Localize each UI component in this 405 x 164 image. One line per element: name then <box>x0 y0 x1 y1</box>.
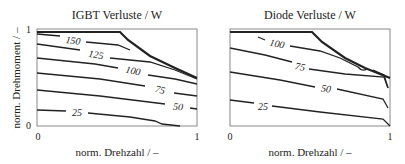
igbt-title: IGBT Verluste / W <box>72 8 163 22</box>
igbt-contour-labels: 150 125 100 75 50 25 <box>65 34 184 118</box>
igbt-label-100: 100 <box>125 64 142 78</box>
diode-label-75: 75 <box>294 60 306 73</box>
igbt-label-150: 150 <box>65 34 81 47</box>
igbt-xtick-1: 1 <box>195 131 200 142</box>
diode-title: Diode Verluste / W <box>264 8 357 22</box>
diode-label-100: 100 <box>269 37 286 51</box>
diode-axes-frame <box>230 29 390 126</box>
igbt-xtick-0: 0 <box>36 131 41 142</box>
igbt-contour-25 <box>37 110 180 126</box>
igbt-contour-100 <box>37 58 197 84</box>
igbt-ytick-1: 1 <box>26 24 31 35</box>
igbt-label-125: 125 <box>88 48 105 61</box>
diode-contour-labels: 100 75 50 25 <box>258 37 332 112</box>
igbt-label-50: 50 <box>173 101 184 113</box>
igbt-contour-125 <box>37 44 197 79</box>
igbt-label-25: 25 <box>72 107 82 118</box>
chart-figure: IGBT Verluste / W 1 0 0 1 norm. Drehzahl… <box>0 0 405 164</box>
diode-contours <box>230 32 390 126</box>
igbt-label-75: 75 <box>154 83 166 96</box>
igbt-contours <box>37 32 197 126</box>
diode-label-50: 50 <box>320 82 331 94</box>
igbt-contour-150 <box>37 34 130 50</box>
igbt-boundary <box>37 32 197 78</box>
diode-xtick-1: 1 <box>388 131 393 142</box>
igbt-ytick-0: 0 <box>26 120 31 131</box>
igbt-xlabel: norm. Drehzahl / – <box>75 146 159 158</box>
diode-plot: Diode Verluste / W 0 1 norm. Drehzahl / … <box>228 8 393 158</box>
diode-xtick-0: 0 <box>228 131 233 142</box>
igbt-ylabel: norm. Drehmoment / – <box>10 27 22 128</box>
diode-label-25: 25 <box>258 101 268 112</box>
igbt-plot: IGBT Verluste / W 1 0 0 1 norm. Drehzahl… <box>10 8 200 158</box>
diode-xlabel: norm. Drehzahl / – <box>268 146 352 158</box>
diode-boundary <box>230 32 390 78</box>
diode-contour-25 <box>230 100 390 126</box>
